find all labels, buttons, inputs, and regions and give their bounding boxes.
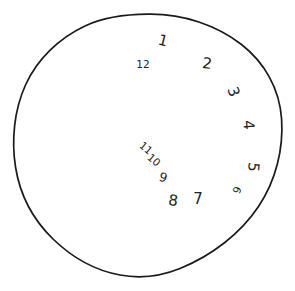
clock-numeral-5: 5: [245, 161, 261, 172]
clock-numeral-7: 7: [193, 192, 203, 207]
clock-drawing-canvas: 1 12 2 3 4 5 6 7 8 9 10 11: [0, 0, 295, 291]
clock-numeral-12: 12: [136, 59, 149, 70]
clock-numeral-4: 4: [240, 120, 256, 131]
